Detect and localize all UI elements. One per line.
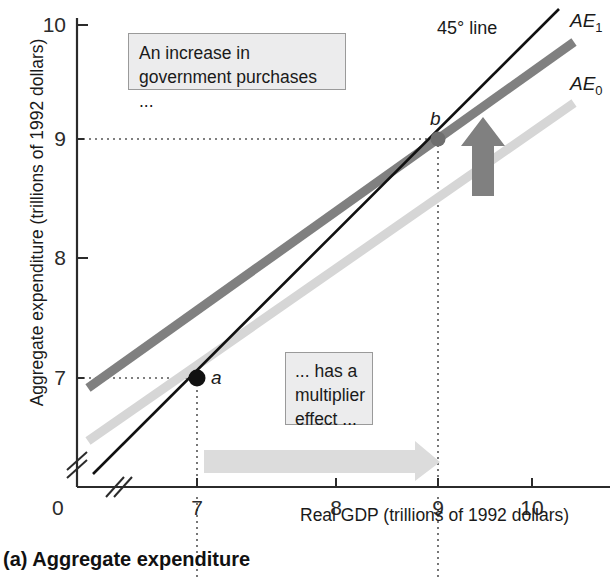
equilibrium-point-b [431, 132, 446, 147]
equilibrium-point-a [189, 370, 206, 387]
x-axis-title: Real GDP (trillions of 1992 dollars) [300, 505, 569, 526]
callout-multiplier-effect: ... has a multiplier effect ... [285, 352, 373, 425]
ae1-curve-label: AE1 [570, 10, 603, 35]
ae0-label-subscript: 0 [595, 83, 602, 98]
ae1-label-text: AE [570, 10, 595, 31]
line-45-degree-label: 45° line [437, 18, 497, 39]
callout-government-purchases: An increase in government purchases ... [128, 33, 346, 90]
x-axis-ticks [197, 478, 532, 487]
ae0-label-text: AE [570, 73, 595, 94]
ae1-curve [88, 42, 574, 388]
figure-caption: (a) Aggregate expenditure [3, 548, 250, 571]
point-b-label: b [430, 108, 441, 130]
origin-label: 0 [52, 496, 64, 520]
ae1-label-subscript: 1 [595, 20, 602, 35]
y-axis-title: Aggregate expenditure (trillions of 1992… [27, 13, 48, 433]
aggregate-expenditure-figure: 10 9 8 7 0 7 8 9 10 Aggregate expenditur… [0, 0, 614, 577]
y-axis-ticks [77, 25, 88, 378]
right-arrow [204, 441, 440, 481]
ae0-curve-label: AE0 [570, 73, 603, 98]
x-tick-label-7: 7 [177, 496, 217, 520]
point-a-label: a [211, 367, 222, 389]
